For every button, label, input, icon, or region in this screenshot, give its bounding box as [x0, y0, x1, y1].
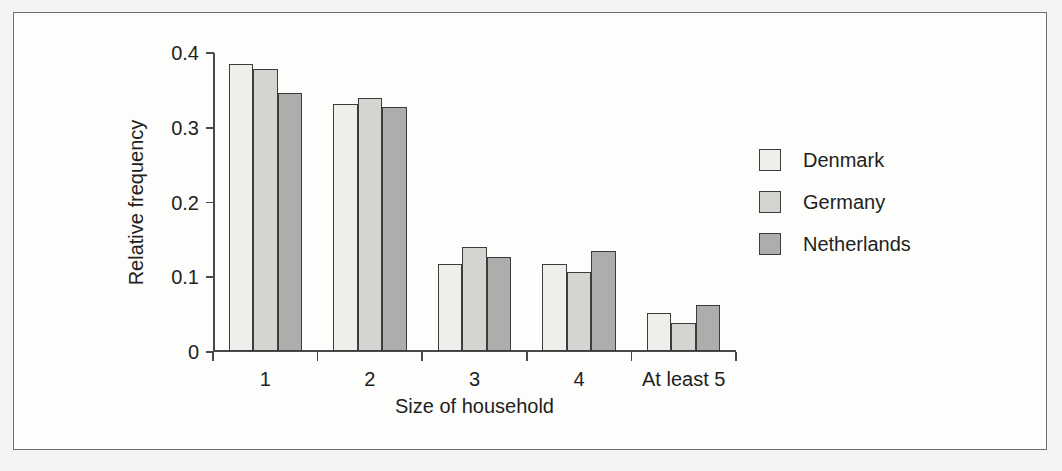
legend-item: Germany	[759, 181, 911, 223]
legend-swatch-icon	[759, 149, 781, 171]
bar	[333, 104, 358, 351]
bar	[358, 98, 383, 351]
figure-frame: 00.10.20.30.4 1234At least 5 Relative fr…	[13, 12, 1047, 450]
bar	[542, 264, 567, 351]
x-axis-tick	[735, 352, 737, 361]
x-axis-tick	[212, 352, 214, 361]
legend-item: Denmark	[759, 139, 911, 181]
x-axis-tick-label: At least 5	[642, 368, 725, 391]
bar	[462, 247, 487, 351]
legend-swatch-icon	[759, 191, 781, 213]
legend-label: Netherlands	[803, 233, 911, 256]
legend-item: Netherlands	[759, 223, 911, 265]
y-axis-tick	[206, 202, 214, 204]
y-axis-tick-label: 0	[188, 341, 199, 364]
bar	[382, 107, 407, 351]
bar	[278, 93, 303, 351]
bar	[647, 313, 672, 351]
bar-chart: 00.10.20.30.4 1234At least 5 Relative fr…	[14, 13, 1048, 451]
x-axis-tick-label: 2	[364, 368, 375, 391]
y-axis-tick-label: 0.4	[171, 42, 199, 65]
y-axis-tick-label: 0.2	[171, 191, 199, 214]
x-axis-tick	[526, 352, 528, 361]
bar	[487, 257, 512, 351]
x-axis-tick-label: 4	[574, 368, 585, 391]
legend-swatch-icon	[759, 233, 781, 255]
bar	[253, 69, 278, 351]
legend-label: Germany	[803, 191, 885, 214]
x-axis-tick-label: 1	[260, 368, 271, 391]
bar	[591, 251, 616, 351]
x-axis-tick-label: 3	[469, 368, 480, 391]
bar	[229, 64, 254, 351]
figure-page: 00.10.20.30.4 1234At least 5 Relative fr…	[0, 0, 1062, 471]
x-axis-tick	[421, 352, 423, 361]
y-axis-tick	[206, 52, 214, 54]
x-axis-title: Size of household	[213, 395, 736, 418]
bar	[696, 305, 721, 351]
bar	[671, 323, 696, 351]
chart-legend: DenmarkGermanyNetherlands	[759, 139, 911, 265]
y-axis-tick-label: 0.3	[171, 116, 199, 139]
bar	[567, 272, 592, 351]
y-axis-title: Relative frequency	[125, 53, 151, 352]
x-axis-tick	[631, 352, 633, 361]
plot-area: 00.10.20.30.4 1234At least 5	[213, 53, 736, 352]
bar	[438, 264, 463, 351]
legend-label: Denmark	[803, 149, 884, 172]
y-axis-tick	[206, 127, 214, 129]
y-axis-tick	[206, 276, 214, 278]
x-axis-tick	[317, 352, 319, 361]
y-axis-tick-label: 0.1	[171, 266, 199, 289]
